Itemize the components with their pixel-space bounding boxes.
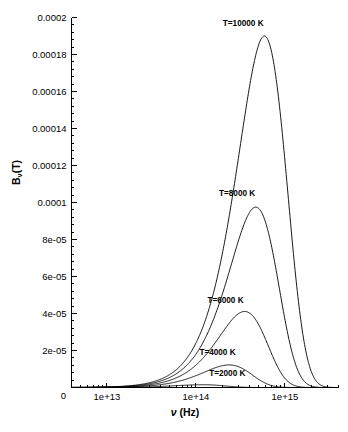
y-tick-label: 8e-05 — [42, 234, 66, 245]
curve-temperature-labels: T=10000 KT=8000 KT=6000 KT=4000 KT=2000 … — [199, 19, 263, 378]
spectral-radiance-curves — [72, 36, 339, 387]
curve-8000K — [72, 207, 339, 387]
y-tick-label: 0.00016 — [32, 86, 66, 97]
curve-label-2000K: T=2000 K — [209, 369, 245, 378]
curve-label-4000K: T=4000 K — [199, 348, 235, 357]
y-axis: 2e-054e-056e-058e-050.00010.000120.00014… — [32, 12, 76, 388]
curve-4000K — [72, 365, 339, 388]
y-axis-tick-labels: 2e-054e-056e-058e-050.00010.000120.00014… — [32, 12, 66, 356]
curve-label-8000K: T=8000 K — [219, 189, 255, 198]
blackbody-spectrum-figure: 2e-054e-056e-058e-050.00010.000120.00014… — [0, 0, 348, 432]
y-tick-label: 4e-05 — [42, 308, 66, 319]
x-axis-title: ν (Hz) — [171, 406, 200, 418]
y-tick-label: 0.0001 — [37, 197, 66, 208]
y-axis-major-ticks — [72, 18, 77, 388]
x-tick-label: 1e+13 — [94, 391, 121, 402]
x-tick-label: 1e+15 — [272, 391, 299, 402]
y-tick-label: 0.00012 — [32, 160, 66, 171]
origin-zero-label: 0 — [61, 390, 66, 401]
y-tick-label: 6e-05 — [42, 271, 66, 282]
y-axis-title: Bν(T) — [10, 160, 24, 185]
y-tick-label: 0.0002 — [37, 12, 66, 23]
y-tick-label: 2e-05 — [42, 345, 66, 356]
curve-label-6000K: T=6000 K — [207, 296, 243, 305]
curve-label-10000K: T=10000 K — [223, 19, 264, 28]
x-axis-tick-labels: 1e+131e+141e+15 — [94, 391, 299, 402]
x-axis: 1e+131e+141e+15 — [72, 383, 339, 402]
curve-10000K — [72, 36, 339, 387]
y-tick-label: 0.00018 — [32, 49, 66, 60]
planck-curves-plot: 2e-054e-056e-058e-050.00010.000120.00014… — [0, 0, 348, 432]
y-tick-label: 0.00014 — [32, 123, 66, 134]
y-axis-title-text: Bν(T) — [10, 160, 24, 185]
x-tick-label: 1e+14 — [183, 391, 210, 402]
